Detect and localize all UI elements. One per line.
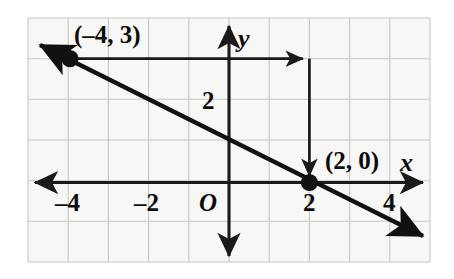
data-point-a [61,50,78,67]
x-axis-label: x [400,150,413,176]
origin-label: O [199,190,217,215]
coordinate-plane-figure: (–4, 3) (2, 0) y x 2 O –4 –2 2 4 [0,0,454,279]
y-axis-label: y [238,26,250,52]
x-tick-label-2: 2 [303,190,316,215]
point-a-label: (–4, 3) [74,22,141,47]
x-tick-label-4: 4 [383,190,396,215]
y-tick-label-2: 2 [202,88,215,113]
point-b-label: (2, 0) [325,148,379,173]
x-tick-label-neg4: –4 [55,190,80,215]
graph-canvas [0,0,454,279]
x-tick-label-neg2: –2 [134,190,159,215]
